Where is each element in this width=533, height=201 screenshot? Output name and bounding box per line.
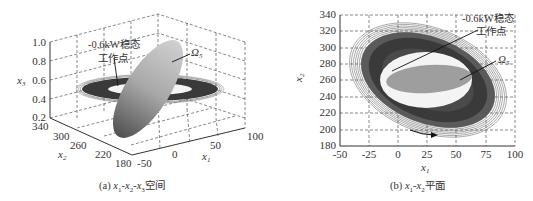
svg-text:0.6: 0.6 <box>32 74 46 86</box>
y-axis-ticks: 340 320 300 280 260 240 220 200 180 x2 <box>292 8 337 151</box>
annot-steady-state-line1: -0.6kW稳态 <box>88 38 141 50</box>
caption-b: (b) x1-x2平面 <box>390 177 445 194</box>
z-axis-label: x3 <box>16 74 26 88</box>
svg-text:-50: -50 <box>137 157 152 169</box>
svg-text:0.4: 0.4 <box>32 93 46 105</box>
svg-text:50: 50 <box>210 139 222 151</box>
x-axis-ticks: -50 -25 0 25 50 75 100 x1 <box>333 148 524 175</box>
chart-panel-2d: -0.6kW稳态 工作点 Ω5 340 320 300 280 260 240 … <box>270 0 533 201</box>
svg-text:0: 0 <box>395 148 401 160</box>
x-axis-label: x1 <box>420 161 429 175</box>
svg-text:50: 50 <box>451 148 463 160</box>
caption-a: (a) x1-x2-x3空间 <box>99 177 165 194</box>
svg-text:-50: -50 <box>333 148 348 160</box>
svg-text:100: 100 <box>247 130 264 142</box>
chart-2d-svg: -0.6kW稳态 工作点 Ω5 340 320 300 280 260 240 … <box>270 0 533 201</box>
svg-text:320: 320 <box>320 24 337 36</box>
svg-text:300: 300 <box>320 41 337 53</box>
svg-text:220: 220 <box>95 148 112 160</box>
annot-steady-state-line2: 工作点 <box>98 53 128 64</box>
svg-text:340: 340 <box>320 8 337 20</box>
chart-3d-svg: -0.6kW稳态 工作点 Ω5 1.0 0.8 0.6 0.4 0.2 x3 3… <box>0 0 270 201</box>
svg-text:260: 260 <box>70 139 87 151</box>
svg-text:-25: -25 <box>362 148 377 160</box>
svg-text:340: 340 <box>32 120 49 132</box>
x-axis-label: x1 <box>201 150 210 164</box>
svg-text:1.0: 1.0 <box>32 36 46 48</box>
chart-panel-3d: -0.6kW稳态 工作点 Ω5 1.0 0.8 0.6 0.4 0.2 x3 3… <box>0 0 270 201</box>
annot-steady-state-line1: -0.6kW稳态 <box>462 12 515 24</box>
y-axis-label: x2 <box>292 73 306 83</box>
annot-omega5: Ω5 <box>191 46 203 60</box>
svg-text:220: 220 <box>320 106 337 118</box>
svg-text:0: 0 <box>172 148 178 160</box>
svg-text:75: 75 <box>481 148 493 160</box>
svg-text:240: 240 <box>320 90 337 102</box>
annot-steady-state-line2: 工作点 <box>476 26 506 37</box>
svg-text:180: 180 <box>115 157 132 169</box>
svg-text:200: 200 <box>320 123 337 135</box>
svg-text:300: 300 <box>53 130 70 142</box>
svg-text:0.8: 0.8 <box>32 55 46 67</box>
y-axis-label: x2 <box>57 148 67 162</box>
svg-text:100: 100 <box>507 148 524 160</box>
svg-text:260: 260 <box>320 73 337 85</box>
svg-text:25: 25 <box>422 148 434 160</box>
z-axis-ticks: 1.0 0.8 0.6 0.4 0.2 x3 <box>16 36 47 123</box>
svg-text:280: 280 <box>320 57 337 69</box>
annot-omega5: Ω5 <box>498 53 510 67</box>
